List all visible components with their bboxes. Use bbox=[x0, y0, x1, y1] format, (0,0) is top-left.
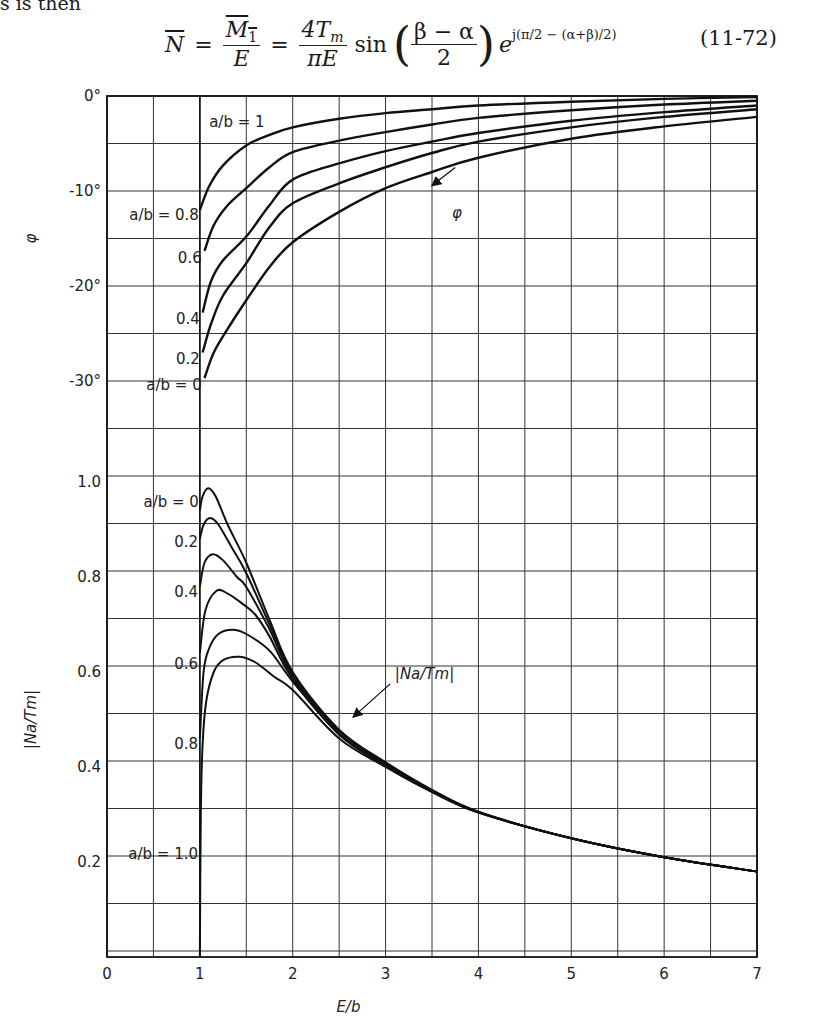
tick-labels: 0°-10°-20°-30°0.20.40.60.81.001234567φ|N… bbox=[22, 87, 762, 1016]
y-tick-magnitude: 1.0 bbox=[77, 473, 101, 491]
x-tick: 4 bbox=[474, 965, 484, 983]
magnitude-curve-label: a/b = 1.0 bbox=[128, 845, 198, 863]
x-tick: 0 bbox=[102, 965, 112, 983]
y-tick-phase: -10° bbox=[69, 182, 101, 200]
y-tick-magnitude: 0.4 bbox=[77, 758, 101, 776]
magnitude-curve-label: 0.6 bbox=[174, 655, 198, 673]
phase-curve-label: 0.2 bbox=[176, 350, 200, 368]
phase-annotation-label: φ bbox=[452, 204, 462, 222]
phase-curve-label: a/b = 0.8 bbox=[129, 206, 199, 224]
y-axis-label-magnitude: |Na/Tm| bbox=[22, 690, 40, 749]
x-tick: 3 bbox=[381, 965, 391, 983]
magnitude-annotation-label: |Na/Tm| bbox=[395, 665, 454, 683]
x-tick: 7 bbox=[752, 965, 762, 983]
x-tick: 6 bbox=[659, 965, 669, 983]
phase-curve-a-b-0-6 bbox=[205, 101, 758, 251]
x-tick: 5 bbox=[567, 965, 577, 983]
y-tick-magnitude: 0.2 bbox=[77, 853, 101, 871]
phase-curve-label: a/b = 1 bbox=[209, 113, 264, 131]
phase-curve-label: 0.6 bbox=[178, 249, 202, 267]
curve-labels: a/b = 1a/b = 0.80.60.40.2a/b = 0a/b = 00… bbox=[128, 113, 264, 863]
y-tick-magnitude: 0.6 bbox=[77, 663, 101, 681]
chart: 0°-10°-20°-30°0.20.40.60.81.001234567φ|N… bbox=[0, 0, 818, 1024]
y-tick-phase: -30° bbox=[69, 372, 101, 390]
magnitude-arrow bbox=[353, 684, 390, 717]
x-tick: 2 bbox=[288, 965, 298, 983]
x-tick: 1 bbox=[195, 965, 205, 983]
y-tick-magnitude: 0.8 bbox=[77, 568, 101, 586]
phase-curve-a-b-0-2 bbox=[203, 109, 757, 352]
y-tick-phase: -20° bbox=[69, 277, 101, 295]
magnitude-curve-label: 0.2 bbox=[174, 533, 198, 551]
phase-curve-a-b-0 bbox=[205, 117, 758, 378]
magnitude-curve-label: a/b = 0 bbox=[144, 493, 199, 511]
magnitude-curve-label: 0.4 bbox=[174, 583, 198, 601]
phase-curve-label: 0.4 bbox=[176, 310, 200, 328]
grid bbox=[107, 96, 757, 957]
phase-curve-label: a/b = 0 bbox=[146, 376, 201, 394]
x-axis-label: E/b bbox=[336, 998, 360, 1016]
magnitude-curve-label: 0.8 bbox=[174, 735, 198, 753]
annotations: φ|Na/Tm| bbox=[353, 167, 462, 717]
y-axis-label-phase: φ bbox=[22, 233, 40, 243]
y-tick-phase: 0° bbox=[84, 87, 101, 105]
